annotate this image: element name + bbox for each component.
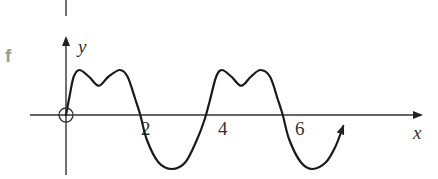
- x-axis-label: x: [412, 122, 422, 143]
- y-axis-label: y: [76, 36, 87, 57]
- graph-figure: f 246 y x: [0, 0, 438, 179]
- x-tick-label-4: 4: [218, 118, 228, 139]
- x-tick-label-6: 6: [295, 118, 305, 139]
- tick-labels: 246: [141, 118, 305, 139]
- axes: [30, 38, 421, 175]
- panel-label: f: [5, 45, 12, 66]
